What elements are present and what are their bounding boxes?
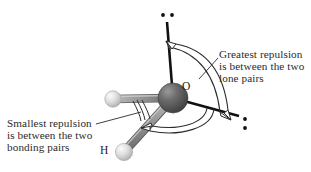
- greatest-repulsion-line-3: lone pairs: [219, 72, 304, 84]
- lone-pair-dot: [243, 117, 247, 121]
- smallest-repulsion-line-1: Smallest repulsion: [7, 117, 92, 129]
- greatest-repulsion-line-2: is between the two: [219, 60, 304, 72]
- lone-pair-dot: [161, 13, 165, 17]
- smallest-repulsion-note: Smallest repulsion is between the two bo…: [7, 117, 92, 154]
- leader-line-smallest-repulsion: [96, 112, 141, 124]
- greatest-repulsion-line-1: Greatest repulsion: [219, 48, 304, 60]
- lone-pair-dot: [243, 126, 247, 130]
- greatest-repulsion-note: Greatest repulsion is between the two lo…: [219, 48, 304, 85]
- atom-label-oxygen: O: [182, 81, 190, 93]
- smallest-repulsion-line-2: is between the two: [7, 129, 92, 141]
- lone-pair-dot: [170, 13, 174, 17]
- arc-smallest-repulsion: [133, 100, 150, 121]
- atom-label-hydrogen: H: [100, 145, 108, 157]
- smallest-repulsion-line-3: bonding pairs: [7, 141, 92, 153]
- atom-hydrogen-left: [105, 91, 121, 107]
- vsepr-water-repulsion-diagram: Greatest repulsion is between the two lo…: [0, 0, 311, 172]
- atom-hydrogen-bottom: [115, 143, 132, 160]
